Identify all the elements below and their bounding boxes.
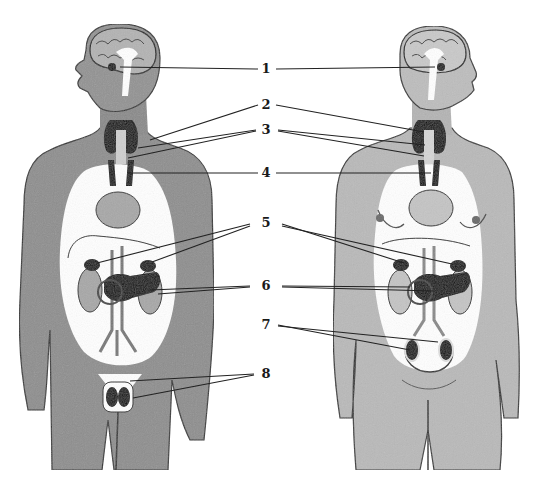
- callout-7: 7: [258, 318, 274, 332]
- callout-5: 5: [258, 216, 274, 230]
- male-adrenal-left: [84, 259, 100, 271]
- callout-6: 6: [258, 279, 274, 293]
- male-figure: [19, 24, 214, 470]
- female-pituitary: [437, 63, 445, 71]
- male-testes: [103, 382, 133, 412]
- callout-4: 4: [258, 166, 274, 180]
- male-heart-lung: [96, 192, 140, 228]
- callout-8: 8: [258, 367, 274, 381]
- callout-3: 3: [258, 123, 274, 137]
- callout-2: 2: [258, 98, 274, 112]
- callout-1: 1: [258, 62, 274, 76]
- female-figure: [333, 26, 519, 470]
- male-pituitary: [108, 63, 116, 71]
- female-heart-lung: [409, 190, 453, 226]
- endocrine-diagram: 1 2 3 4 5 6 7 8: [0, 0, 538, 497]
- female-adrenal-right: [450, 260, 466, 272]
